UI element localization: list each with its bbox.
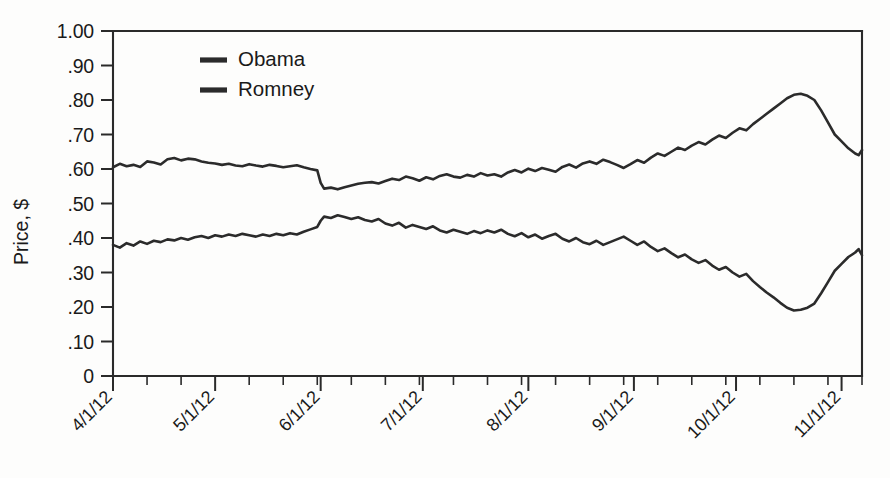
y-tick-label: .10	[67, 331, 94, 353]
y-tick-label: .30	[67, 262, 94, 284]
y-tick-label: .50	[67, 193, 94, 215]
legend-label-obama: Obama	[238, 47, 306, 70]
prediction-market-price-chart: 0.10.20.30.40.50.60.70.80.901.00 4/1/125…	[0, 0, 890, 478]
y-axis-title: Price, $	[10, 199, 32, 265]
y-tick-label: .60	[67, 158, 94, 180]
chart-svg: 0.10.20.30.40.50.60.70.80.901.00 4/1/125…	[0, 0, 890, 478]
chart-background	[0, 0, 890, 478]
y-tick-label: 1.00	[57, 20, 95, 42]
y-tick-label: .90	[67, 55, 94, 77]
y-tick-label: .20	[67, 296, 94, 318]
y-tick-label: .40	[67, 227, 94, 249]
y-tick-label: .80	[67, 89, 94, 111]
y-tick-label: .70	[67, 124, 94, 146]
y-tick-label: 0	[83, 365, 94, 387]
legend-label-romney: Romney	[238, 77, 315, 100]
